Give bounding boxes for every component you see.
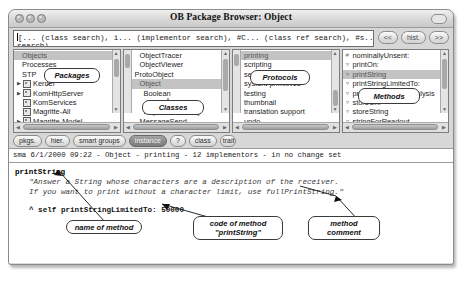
scrollbar-thumb[interactable] <box>223 59 228 91</box>
method-body-line: ^ self printStringLimitedTo: 50000 <box>15 205 447 215</box>
scroll-left-arrow-icon[interactable]: ◀ <box>14 123 22 131</box>
list-item-label: STP <box>22 70 36 79</box>
protocols-left-scroll-rail[interactable] <box>233 50 241 113</box>
search-row: [... (class search), i... (implementor s… <box>9 28 453 49</box>
branch-icon: ▿ <box>346 98 351 107</box>
list-item[interactable]: ObjectTracer <box>132 51 230 60</box>
callout-packages: Packages <box>44 68 100 83</box>
scrollbar-thumb[interactable] <box>114 59 119 77</box>
tab-instance[interactable]: instance <box>129 135 167 147</box>
disclosure-triangle-icon[interactable]: ▶ <box>17 89 22 98</box>
scroll-right-arrow-icon[interactable]: ▶ <box>112 123 120 131</box>
scroll-up-arrow-icon[interactable]: ▲ <box>113 50 120 57</box>
scrollbar-thumb[interactable] <box>125 54 130 68</box>
list-item-label: Magritte-All <box>33 107 70 116</box>
methods-vertical-scrollbar[interactable]: ▲ ▼ <box>440 50 448 113</box>
forward-button[interactable]: >> <box>429 31 449 44</box>
method-name-line: printString <box>15 167 447 177</box>
tab-hier[interactable]: hier. <box>45 135 70 147</box>
list-item[interactable]: ▶KomHttpServer <box>14 89 120 98</box>
classes-horizontal-scrollbar[interactable]: ◀ ▶ <box>124 122 230 132</box>
hash-icon: # <box>346 51 351 60</box>
scroll-down-arrow-icon[interactable]: ▼ <box>222 106 229 113</box>
list-item-label: thumbnail <box>244 98 276 107</box>
list-item[interactable]: thumbnail <box>241 98 339 107</box>
packages-pane[interactable]: Objects Processes STP ▶Kernel ▶KomHttpSe… <box>13 49 121 133</box>
protocols-vertical-scrollbar[interactable]: ▲ ▼ <box>331 50 339 113</box>
tab-class[interactable]: class <box>189 135 217 147</box>
tab-smart-groups[interactable]: smart groups <box>73 135 126 147</box>
packages-list[interactable]: Objects Processes STP ▶Kernel ▶KomHttpSe… <box>14 50 120 122</box>
list-item[interactable]: Objects <box>14 51 120 60</box>
list-item[interactable]: ▸Magritte-All <box>14 107 120 116</box>
list-item[interactable]: #nominallyUnsent: <box>343 51 449 60</box>
list-item-label: printString <box>353 70 387 79</box>
packages-vertical-scrollbar[interactable]: ▲ ▼ <box>112 50 120 113</box>
callout-name-of-method: name of method <box>66 220 142 234</box>
scrollbar-thumb[interactable] <box>23 124 110 130</box>
list-item[interactable]: ▿printString <box>343 70 449 79</box>
list-item-label: printOn: <box>353 60 379 69</box>
list-item[interactable]: translation support <box>241 107 339 116</box>
history-button[interactable]: hist. <box>401 31 426 44</box>
disclosure-triangle-icon[interactable]: ▶ <box>17 79 22 88</box>
list-item-label: ObjectViewer <box>140 60 184 69</box>
scroll-right-arrow-icon[interactable]: ▶ <box>440 123 448 131</box>
packages-horizontal-scrollbar[interactable]: ◀ ▶ <box>14 122 120 132</box>
protocols-horizontal-scrollbar[interactable]: ◀ ▶ <box>233 122 339 132</box>
protocols-list[interactable]: printing scripting self evaluating syste… <box>233 50 339 122</box>
code-editor[interactable]: printString "Answer a String whose chara… <box>9 163 453 263</box>
callout-methods: Methods <box>358 88 420 104</box>
scroll-up-arrow-icon[interactable]: ▲ <box>332 50 339 57</box>
method-comment-line-1: "Answer a String whose characters are a … <box>15 177 447 187</box>
window-titlebar[interactable]: OB Package Browser: Object <box>9 10 453 28</box>
tab-trait[interactable]: trait <box>220 135 236 147</box>
scroll-left-arrow-icon[interactable]: ◀ <box>343 123 351 131</box>
scrollbar-thumb[interactable] <box>234 54 239 66</box>
callout-code-of-method: code of method "printString" <box>193 216 283 240</box>
classes-vertical-scrollbar[interactable]: ▲ ▼ <box>221 50 229 113</box>
list-item[interactable]: ▸KomServices <box>14 98 120 107</box>
list-item-label: KomHttpServer <box>33 89 84 98</box>
scrollbar-thumb[interactable] <box>333 90 338 106</box>
scrollbar-thumb[interactable] <box>352 124 439 130</box>
scroll-up-arrow-icon[interactable]: ▲ <box>222 50 229 57</box>
screenshot-root: OB Package Browser: Object [... (class s… <box>0 0 463 284</box>
scroll-down-arrow-icon[interactable]: ▼ <box>441 106 448 113</box>
list-item[interactable]: printing <box>241 51 339 60</box>
scroll-left-arrow-icon[interactable]: ◀ <box>124 123 132 131</box>
scroll-down-arrow-icon[interactable]: ▼ <box>113 106 120 113</box>
list-item[interactable]: Object <box>132 79 230 88</box>
scroll-up-arrow-icon[interactable]: ▲ <box>441 50 448 57</box>
scroll-right-arrow-icon[interactable]: ▶ <box>331 123 339 131</box>
list-item[interactable]: ▿printOn: <box>343 60 449 69</box>
list-item-label: scripting <box>244 60 272 69</box>
branch-icon: ▿ <box>346 79 351 88</box>
classes-pane[interactable]: ObjectTracer ObjectViewer ProtoObject Ob… <box>123 49 231 133</box>
scroll-down-arrow-icon[interactable]: ▼ <box>332 106 339 113</box>
tab-pkgs[interactable]: pkgs. <box>13 135 42 147</box>
tab-help[interactable]: ? <box>170 135 186 147</box>
back-button[interactable]: << <box>378 31 398 44</box>
scroll-left-arrow-icon[interactable]: ◀ <box>233 123 241 131</box>
scrollbar-thumb[interactable] <box>242 124 329 130</box>
nav-button-group: << hist. >> <box>378 30 449 44</box>
scrollbar-thumb[interactable] <box>133 124 220 130</box>
list-item[interactable]: ▿storeString <box>343 107 449 116</box>
methods-horizontal-scrollbar[interactable]: ◀ ▶ <box>343 122 449 132</box>
callout-method-comment-line1: method <box>330 219 357 228</box>
methods-list[interactable]: #nominallyUnsent: ▿printOn: ▿printString… <box>343 50 449 122</box>
list-item[interactable]: ObjectViewer <box>132 60 230 69</box>
list-item[interactable]: Boolean <box>132 89 230 98</box>
search-input[interactable]: [... (class search), i... (implementor s… <box>13 30 374 47</box>
list-item[interactable]: scripting <box>241 60 339 69</box>
scrollbar-thumb[interactable] <box>442 59 447 89</box>
classes-left-scroll-rail[interactable] <box>124 50 132 113</box>
callout-method-comment-line2: comment <box>327 228 361 237</box>
list-item[interactable]: testing <box>241 89 339 98</box>
toolbar-toggle-button[interactable] <box>431 14 447 24</box>
list-item[interactable]: ProtoObject <box>132 70 230 79</box>
protocols-pane[interactable]: printing scripting self evaluating syste… <box>232 49 340 133</box>
scroll-right-arrow-icon[interactable]: ▶ <box>221 123 229 131</box>
list-item-label: ObjectTracer <box>140 51 182 60</box>
